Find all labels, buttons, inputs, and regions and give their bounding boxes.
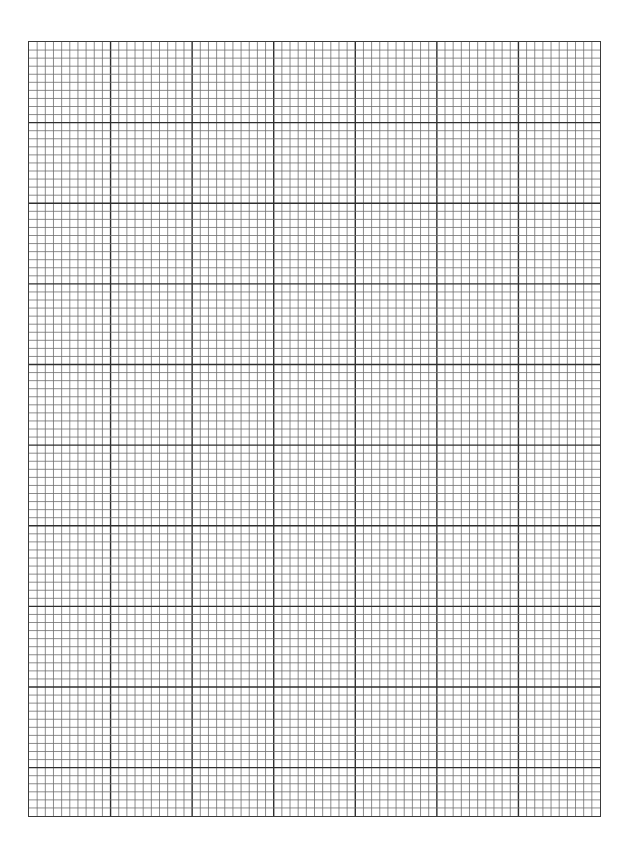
grid-lines — [29, 42, 600, 816]
graph-paper-grid — [28, 41, 601, 817]
graph-paper-page — [0, 0, 633, 857]
